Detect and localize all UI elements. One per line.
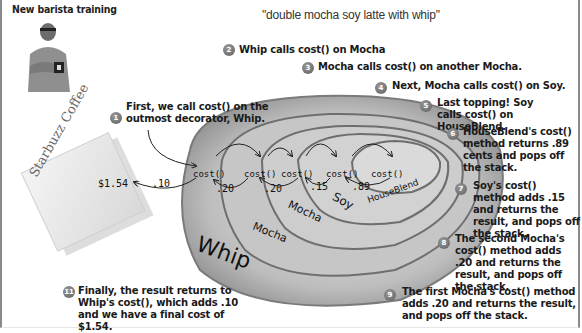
- whip-cost-call: cost(): [193, 169, 226, 179]
- mocha1-cost-call: cost(): [244, 169, 277, 179]
- step-8-text: The second Mocha's cost() method adds .2…: [455, 233, 575, 293]
- mocha1-return-value: .20: [216, 183, 234, 194]
- step-badge-4: 4: [375, 82, 387, 94]
- houseblend-return-value: .89: [352, 181, 370, 192]
- mocha2-return-value: .20: [264, 183, 282, 194]
- step-badge-7: 7: [455, 183, 467, 195]
- step-2-text: Whip calls cost() on Mocha: [239, 44, 439, 56]
- step-badge-8: 8: [438, 237, 450, 249]
- step-4-text: Next, Mocha calls cost() on Soy.: [392, 80, 582, 92]
- step-3-text: Mocha calls cost() on another Mocha.: [318, 61, 578, 73]
- step-9-text: The first Mocha's cost() method adds .20…: [402, 286, 577, 322]
- step-badge-5: 5: [420, 100, 432, 112]
- step-11-text: Finally, the result returns to Whip's co…: [78, 285, 248, 333]
- soy-cost-call: cost(): [326, 169, 359, 179]
- step-7-text: Soy's cost() method adds .15 and returns…: [473, 180, 581, 240]
- step-1-text: First, we call cost() on the outmost dec…: [126, 101, 276, 125]
- soy-return-value: .15: [310, 181, 328, 192]
- step-6-text: HouseBlend's cost() method returns .89 c…: [463, 126, 575, 174]
- mocha2-cost-call: cost(): [281, 169, 314, 179]
- step-badge-11: 11: [63, 286, 75, 298]
- whip-return-value: .10: [152, 178, 170, 189]
- step-badge-9: 9: [384, 289, 396, 301]
- step-badge-1: 1: [110, 112, 122, 124]
- step-badge-6: 6: [447, 128, 459, 140]
- step-badge-2: 2: [223, 44, 235, 56]
- step-badge-3: 3: [302, 62, 314, 74]
- houseblend-cost-call: cost(): [371, 169, 404, 179]
- napkin-total: $1.54: [98, 178, 128, 189]
